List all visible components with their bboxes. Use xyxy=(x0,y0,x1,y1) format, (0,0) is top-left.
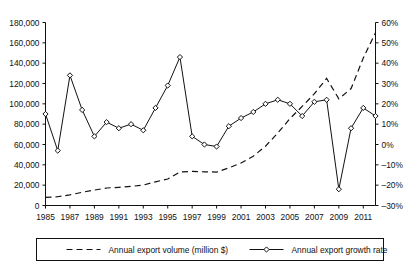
data-point-marker xyxy=(116,126,121,131)
left-axis-tick-label: 20,000 xyxy=(14,180,40,190)
x-axis-tick-label: 2007 xyxy=(305,212,324,222)
x-axis-tick-label: 1995 xyxy=(158,212,177,222)
x-axis-tick-label: 1991 xyxy=(110,212,129,222)
chart-container: 020,00040,00060,00080,000100,000120,0001… xyxy=(0,0,420,275)
right-axis-tick-label: –10% xyxy=(382,160,404,170)
left-axis-tick-label: 120,000 xyxy=(9,79,40,89)
data-point-marker xyxy=(55,148,60,153)
left-axis-tick-label: 60,000 xyxy=(14,140,40,150)
right-axis-tick-label: 40% xyxy=(382,58,399,68)
legend-label-2: Annual export growth rate xyxy=(292,245,388,255)
left-axis-tick-label: 100,000 xyxy=(9,99,40,109)
data-point-marker xyxy=(141,128,146,133)
data-point-marker xyxy=(263,101,268,106)
series-line-1 xyxy=(46,33,376,198)
right-axis-tick-label: 50% xyxy=(382,38,399,48)
x-axis-tick-label: 1997 xyxy=(183,212,202,222)
left-axis-tick-label: 40,000 xyxy=(14,160,40,170)
x-axis-tick-label: 2005 xyxy=(281,212,300,222)
legend-marker-diamond xyxy=(264,247,269,252)
data-point-marker xyxy=(190,134,195,139)
left-axis-tick-label: 180,000 xyxy=(9,18,40,28)
data-point-marker xyxy=(153,105,158,110)
data-point-marker xyxy=(275,97,280,102)
left-axis-tick-label: 140,000 xyxy=(9,58,40,68)
data-point-marker xyxy=(226,124,231,129)
data-point-marker xyxy=(373,113,378,118)
data-point-marker xyxy=(324,97,329,102)
x-axis-tick-label: 1989 xyxy=(85,212,104,222)
series-line-2 xyxy=(46,57,376,189)
x-axis-tick-label: 2009 xyxy=(330,212,349,222)
x-axis-tick-label: 1999 xyxy=(207,212,226,222)
data-point-marker xyxy=(348,126,353,131)
left-axis-tick-label: 0 xyxy=(35,201,40,211)
data-point-marker xyxy=(128,122,133,127)
data-point-marker xyxy=(214,144,219,149)
right-axis-tick-label: 0% xyxy=(382,140,395,150)
right-axis-tick-label: 10% xyxy=(382,119,399,129)
right-axis-tick-label: –30% xyxy=(382,201,404,211)
x-axis-tick-label: 1987 xyxy=(61,212,80,222)
data-point-marker xyxy=(361,105,366,110)
x-axis-tick-label: 2001 xyxy=(232,212,251,222)
data-point-marker xyxy=(251,109,256,114)
data-point-marker xyxy=(67,73,72,78)
right-axis-tick-label: –20% xyxy=(382,180,404,190)
right-axis-tick-label: 20% xyxy=(382,99,399,109)
data-point-marker xyxy=(238,115,243,120)
data-point-marker xyxy=(177,54,182,59)
left-axis-tick-label: 80,000 xyxy=(14,119,40,129)
right-axis-tick-label: 30% xyxy=(382,79,399,89)
data-point-marker xyxy=(165,83,170,88)
right-axis-tick-label: 60% xyxy=(382,18,399,28)
data-point-marker xyxy=(336,187,341,192)
data-point-marker xyxy=(80,107,85,112)
x-axis-tick-label: 1993 xyxy=(134,212,153,222)
x-axis-tick-label: 2003 xyxy=(256,212,275,222)
data-point-marker xyxy=(43,111,48,116)
left-axis-tick-label: 160,000 xyxy=(9,38,40,48)
legend-label-1: Annual export volume (million $) xyxy=(109,245,229,255)
data-point-marker xyxy=(202,142,207,147)
x-axis-tick-label: 2011 xyxy=(354,212,372,222)
x-axis-tick-label: 1985 xyxy=(36,212,55,222)
export-chart: 020,00040,00060,00080,000100,000120,0001… xyxy=(0,0,420,275)
